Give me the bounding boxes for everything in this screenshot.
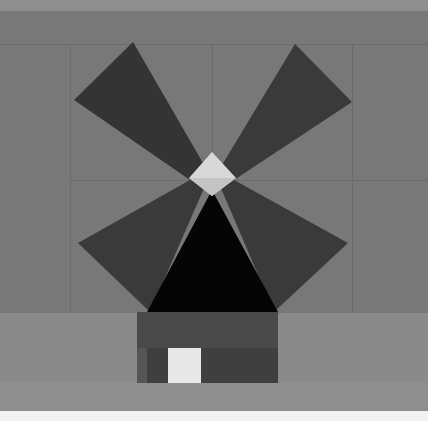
top-light-band	[0, 0, 428, 11]
windmill-illustration	[0, 0, 428, 421]
lower-band	[0, 383, 428, 411]
mill-base-lower-band	[137, 348, 278, 383]
mill-door	[168, 348, 201, 383]
mill-base-left-shadow	[137, 348, 147, 383]
windmill-scene: Windmill windmill-front-elevation	[0, 0, 428, 421]
bottom-white-strip	[0, 411, 428, 421]
